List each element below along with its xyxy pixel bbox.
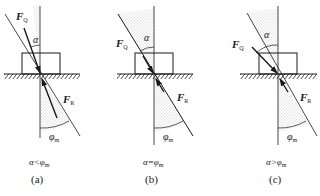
phi-label: φm [163, 131, 174, 143]
force-q-label: FQ [15, 10, 28, 23]
panel-b: FQ α FR φm α=φm (b) [115, 6, 193, 186]
caption: (c) [269, 173, 282, 186]
condition-label: α<φm [29, 157, 50, 168]
friction-cone-upper [247, 8, 278, 75]
condition-label: α>φm [266, 157, 287, 168]
friction-cone-figure: FQ α FR φm α<φm (a) FQ α FR [0, 0, 320, 196]
alpha-label: α [144, 32, 150, 43]
condition-label: α=φm [143, 157, 164, 168]
alpha-label: α [33, 34, 39, 45]
caption: (b) [145, 173, 158, 186]
force-r-label: FR [62, 93, 74, 106]
force-r-label: FR [176, 91, 188, 104]
force-q-label: FQ [115, 37, 128, 50]
panel-c: FQ α FR φm α>φm (c) [231, 6, 317, 186]
block [22, 53, 60, 74]
force-r-label: FR [299, 91, 311, 104]
phi-label: φm [49, 131, 60, 143]
alpha-label: α [264, 29, 270, 40]
ground-hatch [240, 74, 317, 79]
phi-label: φm [287, 131, 298, 143]
caption: (a) [31, 173, 44, 186]
force-q-label: FQ [231, 38, 244, 51]
panel-a: FQ α FR φm α<φm (a) [4, 6, 80, 186]
